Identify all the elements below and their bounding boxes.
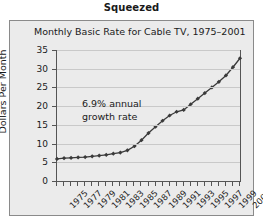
x-axis-tick <box>225 182 226 186</box>
y-axis-tick-label: 25 <box>26 82 48 92</box>
x-axis-tick <box>169 182 170 186</box>
y-axis-tick <box>52 125 56 126</box>
x-axis-tick <box>70 182 71 186</box>
x-axis-tick <box>112 182 113 186</box>
x-axis-tick <box>218 182 219 186</box>
x-axis-tick <box>105 182 106 186</box>
y-axis-tick <box>52 106 56 107</box>
x-axis-tick <box>77 182 78 186</box>
gridline <box>57 125 240 126</box>
x-axis-tick <box>239 182 240 186</box>
x-axis-tick <box>197 182 198 186</box>
x-axis-tick <box>162 182 163 186</box>
x-axis-tick <box>148 182 149 186</box>
gridline <box>57 87 240 88</box>
x-axis-tick <box>211 182 212 186</box>
y-axis-tick <box>52 87 56 88</box>
growth-rate-annotation: 6.9% annualgrowth rate <box>82 97 142 123</box>
y-axis-tick-label: 10 <box>26 139 48 149</box>
figure-container: Squeezed Monthly Basic Rate for Cable TV… <box>0 0 263 224</box>
x-axis-tick <box>84 182 85 186</box>
chart-title: Monthly Basic Rate for Cable TV, 1975–20… <box>34 26 246 37</box>
y-axis-tick <box>52 69 56 70</box>
x-axis-tick <box>190 182 191 186</box>
y-axis-tick <box>52 144 56 145</box>
x-axis-tick <box>98 182 99 186</box>
x-axis-tick <box>126 182 127 186</box>
y-axis-tick-label: 30 <box>26 64 48 74</box>
x-axis-tick <box>155 182 156 186</box>
gridline <box>57 144 240 145</box>
gridline <box>57 69 240 70</box>
annotation-line-2: growth rate <box>82 110 142 123</box>
annotation-line-1: 6.9% annual <box>82 97 142 110</box>
x-axis-tick <box>183 182 184 186</box>
y-axis-tick-label: 15 <box>26 120 48 130</box>
y-axis-tick-label: 35 <box>26 45 48 55</box>
x-axis-tick <box>91 182 92 186</box>
y-axis-tick-label: 20 <box>26 101 48 111</box>
y-axis-tick-label: 0 <box>26 176 48 186</box>
figure-caption: Squeezed <box>0 2 263 13</box>
y-axis-tick-label: 5 <box>26 157 48 167</box>
x-axis-tick <box>119 182 120 186</box>
x-axis-tick <box>176 182 177 186</box>
y-axis-tick <box>52 162 56 163</box>
x-axis-tick <box>140 182 141 186</box>
gridline <box>57 50 240 51</box>
x-axis-tick <box>56 182 57 186</box>
x-axis-tick <box>232 182 233 186</box>
x-axis-tick <box>63 182 64 186</box>
x-axis-tick <box>204 182 205 186</box>
y-axis-tick <box>52 50 56 51</box>
x-axis-tick <box>133 182 134 186</box>
gridline <box>57 162 240 163</box>
chart-frame: Monthly Basic Rate for Cable TV, 1975–20… <box>9 20 254 216</box>
y-axis-title: Dollars Per Month <box>0 32 8 152</box>
